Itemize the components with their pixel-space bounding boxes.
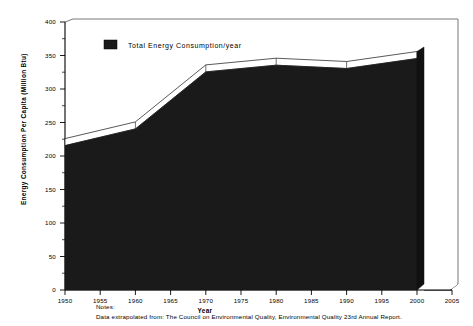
y-tick-label-100: 100 bbox=[45, 219, 56, 226]
y-tick-label-300: 300 bbox=[45, 85, 56, 92]
x-tick-label-1950: 1950 bbox=[58, 297, 73, 304]
energy-consumption-area-chart: 400 350 300 250 200 150 100 50 0 Energy … bbox=[0, 0, 473, 326]
legend-swatch-total-energy bbox=[104, 40, 117, 49]
y-tick-label-50: 50 bbox=[49, 253, 57, 260]
y-tick-label-350: 350 bbox=[45, 52, 56, 59]
x-tick-label-1995: 1995 bbox=[375, 297, 390, 304]
x-tick-label-1965: 1965 bbox=[163, 297, 178, 304]
y-axis-title: Energy Consumption Per Capita (Million B… bbox=[20, 53, 28, 205]
y-tick-label-250: 250 bbox=[45, 119, 56, 126]
y-tick-label-150: 150 bbox=[45, 186, 56, 193]
y-tick-label-0: 0 bbox=[52, 286, 56, 293]
series-right-face bbox=[417, 47, 424, 290]
notes-heading: Notes: bbox=[96, 303, 115, 310]
x-tick-label-1990: 1990 bbox=[339, 297, 354, 304]
x-tick-label-1975: 1975 bbox=[234, 297, 249, 304]
x-tick-label-1960: 1960 bbox=[128, 297, 143, 304]
legend-label-total-energy: Total Energy Consumption/year bbox=[128, 42, 242, 50]
y-tick-label-400: 400 bbox=[45, 18, 56, 25]
x-tick-label-1970: 1970 bbox=[199, 297, 214, 304]
chart-container: 400 350 300 250 200 150 100 50 0 Energy … bbox=[0, 0, 473, 326]
notes-source-line: Data extrapolated from: The Council on E… bbox=[96, 313, 402, 320]
x-tick-label-2000: 2000 bbox=[410, 297, 425, 304]
x-tick-label-1980: 1980 bbox=[269, 297, 284, 304]
x-tick-label-1985: 1985 bbox=[304, 297, 319, 304]
y-tick-label-200: 200 bbox=[45, 152, 56, 159]
x-tick-label-2005: 2005 bbox=[445, 297, 460, 304]
